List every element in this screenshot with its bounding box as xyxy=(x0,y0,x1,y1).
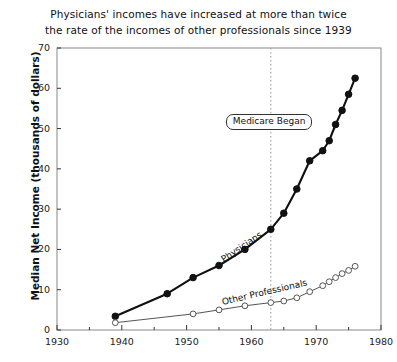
data-point xyxy=(339,271,345,277)
data-point xyxy=(333,275,339,281)
y-tick-label: 40 xyxy=(24,163,50,174)
y-tick-label: 0 xyxy=(24,324,50,335)
data-point xyxy=(346,268,352,274)
data-point xyxy=(190,311,196,317)
plot-frame xyxy=(57,48,381,330)
data-point xyxy=(242,303,248,309)
data-point xyxy=(281,298,287,304)
y-tick-label: 70 xyxy=(24,42,50,53)
data-point xyxy=(326,137,333,144)
x-tick-label: 1940 xyxy=(102,336,142,347)
data-point xyxy=(326,279,332,285)
data-point xyxy=(216,307,222,313)
data-point xyxy=(339,107,346,114)
data-point xyxy=(112,320,118,326)
x-tick-label: 1980 xyxy=(361,336,397,347)
data-point xyxy=(216,262,223,269)
data-point xyxy=(307,289,313,295)
data-point xyxy=(319,147,326,154)
x-tick-label: 1970 xyxy=(296,336,336,347)
x-tick-label: 1950 xyxy=(167,336,207,347)
medicare-annotation-badge: Medicare Began xyxy=(226,114,313,130)
data-point xyxy=(268,300,274,306)
data-point xyxy=(268,226,275,233)
data-point xyxy=(190,274,197,281)
y-tick-label: 60 xyxy=(24,82,50,93)
y-tick-label: 20 xyxy=(24,243,50,254)
y-tick-label: 50 xyxy=(24,123,50,134)
y-tick-label: 10 xyxy=(24,284,50,295)
data-point xyxy=(294,186,301,193)
data-point xyxy=(345,91,352,98)
data-point xyxy=(352,263,358,269)
data-point xyxy=(352,75,359,82)
data-point xyxy=(294,295,300,301)
x-tick-label: 1930 xyxy=(37,336,77,347)
data-point xyxy=(306,158,313,165)
data-point xyxy=(281,210,288,217)
chart-container: Physicians' incomes have increased at mo… xyxy=(0,0,397,362)
y-tick-label: 30 xyxy=(24,203,50,214)
data-point xyxy=(332,121,339,128)
data-point xyxy=(112,313,119,320)
plot-area xyxy=(0,0,397,362)
x-tick-label: 1960 xyxy=(231,336,271,347)
data-point xyxy=(164,290,171,297)
data-point xyxy=(320,283,326,289)
